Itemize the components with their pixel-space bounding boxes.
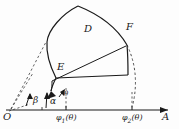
label-angle-alpha: α xyxy=(50,97,56,106)
region-bottom-edge xyxy=(56,75,128,78)
phi2-argument: (θ) xyxy=(131,113,142,122)
label-point-f: F xyxy=(126,22,133,32)
region-d-outline xyxy=(47,6,128,91)
label-point-e: E xyxy=(57,62,64,72)
dashed-drop-lines xyxy=(66,88,132,108)
region-lower-tail-inner xyxy=(51,81,52,91)
geometry-figure: O A D E F β α θ φ1(θ) φ2(θ) xyxy=(0,0,179,129)
label-origin: O xyxy=(3,112,11,122)
angle-arrows xyxy=(26,89,65,108)
figure-canvas xyxy=(0,0,179,129)
horizontal-axis xyxy=(6,107,168,113)
dashed-ray-beta-lower xyxy=(11,73,33,109)
label-axis-phi1: φ1(θ) xyxy=(56,114,77,124)
region-right-edge xyxy=(127,45,128,75)
axis-ticks xyxy=(42,106,132,110)
label-region-d-text: D xyxy=(84,24,92,34)
label-angle-beta: β xyxy=(33,96,38,105)
label-axis-phi2: φ2(θ) xyxy=(122,114,143,124)
label-angle-theta: θ xyxy=(64,91,68,98)
label-axis-end: A xyxy=(162,112,169,122)
phi1-argument: (θ) xyxy=(65,113,76,122)
